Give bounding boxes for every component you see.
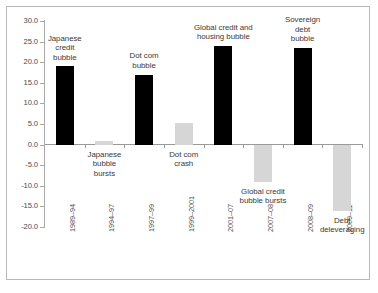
annotation-2001-07: Global credit and housing bubble <box>184 23 262 42</box>
y-axis-tick-label-wrap: -5.0 <box>0 160 38 170</box>
y-axis-tick-label: 15.0 <box>2 78 38 87</box>
bar-1989-94 <box>56 66 74 144</box>
x-axis-tick <box>124 144 125 148</box>
annotation-1999-2001: Dot com crash <box>145 150 223 169</box>
y-axis-tick <box>40 227 45 228</box>
x-axis-category-label: 1997–99 <box>147 204 156 232</box>
y-axis-tick <box>40 206 45 207</box>
x-axis-tick <box>164 144 165 148</box>
y-axis-tick-label-wrap: -20.0 <box>0 222 38 232</box>
bar-2009-11 <box>333 145 351 211</box>
y-axis-tick-label-wrap: 30.0 <box>0 16 38 26</box>
annotation-1989-94: Japanese credit bubble <box>26 34 104 63</box>
y-axis-tick-label: 0.0 <box>2 140 38 149</box>
y-axis-tick-label-wrap: 15.0 <box>0 78 38 88</box>
y-axis-tick-label: -10.0 <box>2 181 38 190</box>
y-axis-tick-label: -5.0 <box>2 160 38 169</box>
y-axis-tick-label: 10.0 <box>2 98 38 107</box>
annotation-1997-99: Dot com bubble <box>105 51 183 70</box>
bar-1999-2001 <box>175 123 193 144</box>
x-axis-category-label: 1994–97 <box>107 204 116 232</box>
y-axis-tick <box>40 21 45 22</box>
x-axis-category-label: 1989–94 <box>68 204 77 232</box>
annotation-2007-08: Global credit bubble bursts <box>224 187 302 206</box>
y-axis-tick-label: 30.0 <box>2 16 38 25</box>
y-axis-tick-label-wrap: 0.0 <box>0 140 38 150</box>
x-axis-category-label: 2007–08 <box>266 204 275 232</box>
y-axis-tick <box>40 62 45 63</box>
x-axis-category-label: 2001–07 <box>226 204 235 232</box>
x-axis-tick <box>322 144 323 148</box>
y-axis-tick <box>40 83 45 84</box>
y-axis-tick-label-wrap: -15.0 <box>0 201 38 211</box>
y-axis-tick <box>40 124 45 125</box>
bar-2007-08 <box>254 145 272 182</box>
y-axis-tick-label-wrap: 5.0 <box>0 119 38 129</box>
y-axis-tick <box>40 145 45 146</box>
x-axis-tick <box>85 144 86 148</box>
y-axis-tick <box>40 186 45 187</box>
bar-1994-97 <box>95 141 113 144</box>
y-axis-tick <box>40 165 45 166</box>
annotation-1994-97: Japanese bubble bursts <box>65 150 143 179</box>
x-axis-tick <box>243 144 244 148</box>
y-axis-tick-label: -15.0 <box>2 201 38 210</box>
bar-2001-07 <box>214 46 232 145</box>
bar-2008-09 <box>294 48 312 145</box>
y-axis-tick <box>40 103 45 104</box>
bar-chart-figure: 30.025.020.015.010.05.00.0-5.0-10.0-15.0… <box>0 0 378 293</box>
y-axis-tick-label-wrap: 10.0 <box>0 98 38 108</box>
annotation-2008-09: Sovereign debt bubble <box>264 15 342 44</box>
y-axis-tick-label: 5.0 <box>2 119 38 128</box>
y-axis-tick-label: -20.0 <box>2 222 38 231</box>
x-axis-tick <box>283 144 284 148</box>
annotation-2009-11: Debt deleveraging <box>303 216 378 235</box>
x-axis-tick <box>204 144 205 148</box>
x-axis-category-label: 1999–2001 <box>187 196 196 232</box>
y-axis-tick-label-wrap: -10.0 <box>0 181 38 191</box>
bar-1997-99 <box>135 75 153 145</box>
x-axis-tick <box>362 144 363 148</box>
